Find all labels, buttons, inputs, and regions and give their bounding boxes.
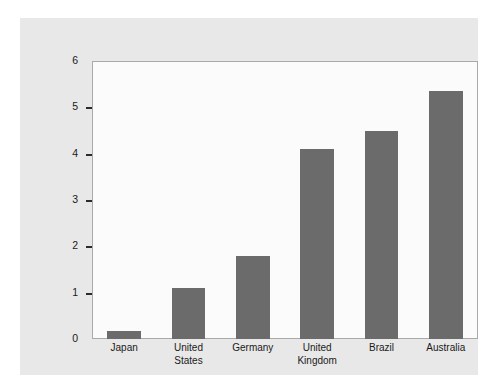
x-tick-label: Japan (92, 342, 156, 355)
x-tick-label-line: United (156, 342, 220, 355)
bar (429, 91, 462, 339)
y-tick-label: 6 (72, 54, 78, 67)
y-tick: 3 (20, 200, 92, 201)
bar (365, 131, 398, 340)
x-tick-label: Germany (221, 342, 285, 355)
y-tick-label: 1 (72, 286, 78, 299)
y-tick: 2 (20, 246, 92, 247)
y-tick-label: 2 (72, 239, 78, 252)
y-tick: 1 (20, 293, 92, 294)
y-tick-label: 4 (72, 147, 78, 160)
y-tick: 4 (20, 154, 92, 155)
y-tick-label: 5 (72, 100, 78, 113)
bar (107, 331, 140, 339)
y-tick: 5 (20, 107, 92, 108)
x-tick-label: UnitedKingdom (285, 342, 349, 367)
x-tick-label: Brazil (349, 342, 413, 355)
x-tick-label-line: Japan (92, 342, 156, 355)
y-tick: 6 (20, 61, 92, 62)
x-axis-tick-labels: JapanUnitedStatesGermanyUnitedKingdomBra… (92, 342, 478, 384)
bar (236, 256, 269, 339)
x-tick-label-line: Australia (414, 342, 478, 355)
x-tick-label-line: Brazil (349, 342, 413, 355)
x-tick-label: UnitedStates (156, 342, 220, 367)
bar (172, 288, 205, 339)
x-tick-label-line: Kingdom (285, 355, 349, 368)
x-tick-label-line: States (156, 355, 220, 368)
bar-chart-figure: Annualized Interest Rate (%) 0123456 Jap… (0, 0, 493, 392)
y-tick-label: 0 (72, 332, 78, 345)
bars-layer (92, 61, 478, 339)
y-tick: 0 (20, 339, 92, 340)
bar (300, 149, 333, 339)
x-tick-label: Australia (414, 342, 478, 355)
figure-panel: Annualized Interest Rate (%) 0123456 Jap… (20, 18, 478, 375)
x-tick-label-line: Germany (221, 342, 285, 355)
y-tick-label: 3 (72, 193, 78, 206)
x-tick-label-line: United (285, 342, 349, 355)
